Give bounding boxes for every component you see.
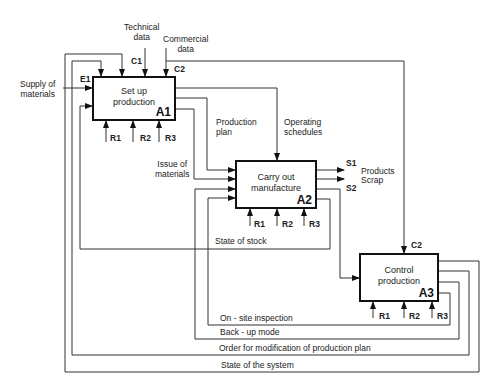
order-modification-label: Order for modification of production pla… bbox=[219, 343, 371, 353]
a3-r1: R1 bbox=[379, 311, 390, 321]
title-line: Control bbox=[361, 265, 437, 276]
a2-r1: R1 bbox=[254, 219, 265, 229]
a3-r3: R3 bbox=[437, 311, 448, 321]
a2-r3: R3 bbox=[309, 219, 320, 229]
c2-code: C2 bbox=[174, 64, 185, 74]
issue-of-materials-label: Issue of materials bbox=[155, 159, 189, 179]
state-of-system-label: State of the system bbox=[221, 360, 294, 370]
activity-id: A1 bbox=[156, 105, 171, 119]
label-line: Supply of bbox=[20, 79, 55, 89]
state-of-stock-label: State of stock bbox=[215, 236, 267, 246]
activity-title: Carry out manufacture bbox=[237, 172, 315, 194]
supply-label: Supply of materials bbox=[20, 79, 55, 99]
label-line: schedules bbox=[284, 127, 322, 137]
label-line: data bbox=[163, 44, 208, 54]
activity-box-a3: Control production A3 bbox=[359, 253, 439, 302]
scrap-label: Scrap bbox=[361, 175, 383, 185]
e1-code: E1 bbox=[80, 74, 90, 84]
c1-code: C1 bbox=[131, 56, 142, 66]
activity-box-a2: Carry out manufacture A2 bbox=[235, 160, 317, 209]
technical-data-label: Technical data bbox=[124, 22, 159, 42]
activity-title: Control production bbox=[361, 265, 437, 287]
a1-r3: R3 bbox=[165, 133, 176, 143]
label-line: materials bbox=[20, 89, 55, 99]
a2-r2: R2 bbox=[282, 219, 293, 229]
label-line: Technical bbox=[124, 22, 159, 32]
label-line: plan bbox=[216, 127, 257, 137]
activity-id: A3 bbox=[419, 286, 434, 300]
commercial-data-label: Commercial data bbox=[163, 34, 208, 54]
label-line: Issue of bbox=[155, 159, 189, 169]
operating-schedules-label: Operating schedules bbox=[284, 117, 322, 137]
a3-r2: R2 bbox=[409, 311, 420, 321]
label-line: Production bbox=[216, 117, 257, 127]
on-site-inspection-label: On - site inspection bbox=[220, 313, 293, 323]
label-line: data bbox=[124, 32, 159, 42]
label-line: Commercial bbox=[163, 34, 208, 44]
c2-a3-code: C2 bbox=[411, 240, 422, 250]
s1-code: S1 bbox=[346, 158, 356, 168]
label-line: Operating bbox=[284, 117, 322, 127]
production-plan-label: Production plan bbox=[216, 117, 257, 137]
title-line: Carry out bbox=[237, 172, 315, 183]
activity-box-a1: Set up production A1 bbox=[92, 76, 176, 121]
activity-id: A2 bbox=[297, 193, 312, 207]
backup-mode-label: Back - up mode bbox=[220, 327, 280, 337]
a1-r2: R2 bbox=[140, 133, 151, 143]
s2-code: S2 bbox=[346, 183, 356, 193]
title-line: Set up bbox=[94, 86, 174, 97]
a1-r1: R1 bbox=[110, 133, 121, 143]
label-line: materials bbox=[155, 169, 189, 179]
